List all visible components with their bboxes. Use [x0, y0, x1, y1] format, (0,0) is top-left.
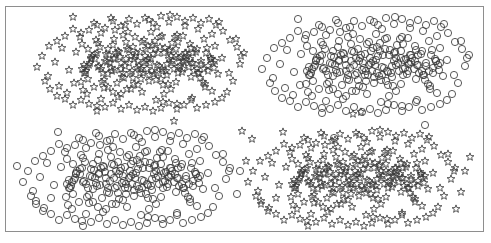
scatter-figure [0, 0, 491, 243]
panel-bottom-right [246, 120, 484, 232]
series-bottom-right-cluster [242, 126, 474, 229]
plot-frame [5, 6, 484, 232]
